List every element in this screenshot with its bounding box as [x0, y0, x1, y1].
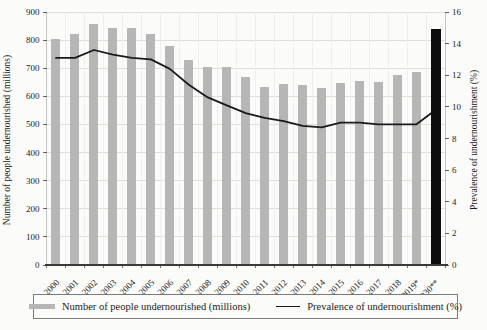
left-axis-tick-label: 800: [26, 35, 40, 45]
legend-label-line: Prevalence of undernourishment (%): [307, 301, 462, 312]
legend-label-bars: Number of people undernourished (million…: [62, 301, 250, 312]
right-axis-tick-label: 12: [452, 70, 461, 80]
bar-2015: [336, 83, 345, 265]
bar-2016: [355, 81, 364, 265]
bar-2014: [317, 88, 326, 265]
left-axis-tick-label: 400: [26, 148, 40, 158]
left-axis-title: Number of people undernourished (million…: [2, 55, 13, 225]
bar-series-swatch-icon: [29, 304, 55, 309]
bar-2004: [127, 28, 136, 265]
right-axis-tick-label: 16: [452, 7, 462, 17]
bar-2019*: [412, 72, 421, 265]
left-axis-tick-label: 0: [35, 260, 40, 270]
bar-2000: [51, 39, 60, 265]
bar-2001: [70, 34, 79, 265]
line-series-swatch-icon: [276, 306, 300, 307]
right-axis-tick-label: 0: [452, 260, 457, 270]
bar-2011: [260, 87, 269, 265]
left-axis-tick-label: 500: [26, 119, 40, 129]
bar-2010: [241, 77, 250, 265]
left-axis-tick-label: 700: [26, 63, 40, 73]
right-axis-title: Prevalence of undernourishment (%): [469, 70, 480, 210]
bar-2003: [108, 28, 117, 265]
left-axis-tick-label: 600: [26, 91, 40, 101]
left-axis-tick-label: 200: [26, 204, 40, 214]
chart-legend: Number of people undernourished (million…: [33, 294, 458, 319]
left-axis-tick-label: 300: [26, 176, 40, 186]
legend-item-bars: Number of people undernourished (million…: [29, 301, 250, 312]
right-axis-tick-label: 6: [452, 165, 457, 175]
bar-2013: [298, 85, 307, 265]
bar-2002: [89, 24, 98, 265]
bar-2006: [165, 46, 174, 265]
left-axis-tick-label: 100: [26, 232, 40, 242]
bar-2009: [222, 67, 231, 265]
right-axis-tick-label: 4: [452, 197, 457, 207]
right-axis-tick-label: 8: [452, 134, 457, 144]
left-axis-tick-label: 900: [26, 7, 40, 17]
bar-2005: [146, 34, 155, 265]
bar-2017: [374, 82, 383, 265]
bar-2007: [184, 60, 193, 265]
legend-item-line: Prevalence of undernourishment (%): [276, 301, 462, 312]
bar-2012: [279, 84, 288, 265]
bar-2018: [393, 75, 402, 265]
right-axis-tick-label: 10: [452, 102, 462, 112]
right-axis-tick-label: 2: [452, 228, 457, 238]
chart-canvas: 0100200300400500600700800900024681012141…: [0, 0, 487, 330]
undernourishment-chart-figure: 0100200300400500600700800900024681012141…: [0, 0, 487, 330]
right-axis-tick-label: 14: [452, 39, 462, 49]
bar-2030**: [431, 29, 441, 265]
